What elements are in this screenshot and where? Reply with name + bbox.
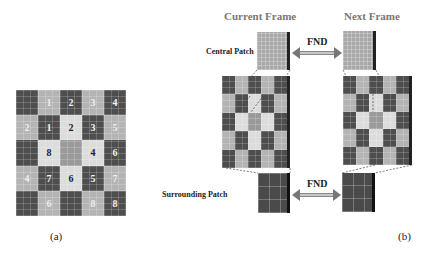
cell-label: 3 (91, 122, 96, 133)
cell-label: 6 (69, 173, 74, 184)
cell-label: 1 (47, 122, 52, 133)
panel-b-caption: (b) (398, 230, 411, 242)
cell-label: 6 (47, 198, 52, 209)
cell-label: 5 (91, 173, 96, 184)
cell-label: 5 (113, 122, 118, 133)
cell-label: 8 (91, 198, 96, 209)
cell-label: 4 (113, 97, 118, 108)
cell-label: 4 (25, 173, 30, 184)
cell-label: 2 (69, 122, 74, 133)
cell-label: 8 (47, 147, 52, 158)
cell-label: 7 (47, 173, 52, 184)
cell-label: 8 (113, 198, 118, 209)
cell-label: 7 (113, 173, 118, 184)
cell-label: 1 (47, 97, 52, 108)
cell-label: 2 (25, 122, 30, 133)
patch-connector-lines (0, 0, 431, 256)
cell-label: 4 (91, 147, 96, 158)
cell-label: 6 (113, 147, 118, 158)
cell-label: 2 (69, 97, 74, 108)
cell-label: 3 (91, 97, 96, 108)
